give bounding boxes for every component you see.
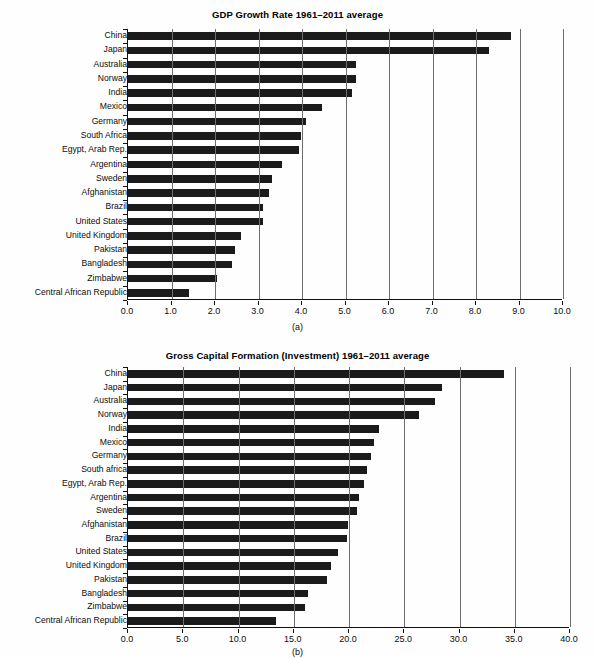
gridline bbox=[172, 29, 173, 299]
category-label: United Kingdom bbox=[0, 231, 127, 240]
category-label: Sweden bbox=[0, 174, 127, 183]
value-label: 25.0 bbox=[383, 634, 423, 644]
bar bbox=[128, 439, 374, 447]
category-label: Afghanistan bbox=[0, 188, 127, 197]
gridline bbox=[215, 29, 216, 299]
category-label: Argentina bbox=[0, 493, 127, 502]
category-label: United States bbox=[0, 217, 127, 226]
gridline bbox=[259, 29, 260, 299]
category-label: Egypt, Arab Rep. bbox=[0, 479, 127, 488]
bar bbox=[128, 535, 347, 543]
value-tick bbox=[403, 629, 404, 633]
figure-page: GDP Growth Rate 1961–2011 average ChinaJ… bbox=[0, 0, 595, 658]
value-tick bbox=[514, 629, 515, 633]
category-label: India bbox=[0, 424, 127, 433]
value-label: 40.0 bbox=[549, 634, 589, 644]
category-label: Egypt, Arab Rep. bbox=[0, 145, 127, 154]
value-tick bbox=[238, 629, 239, 633]
bar bbox=[128, 275, 217, 283]
value-label: 0.0 bbox=[107, 306, 147, 316]
value-tick bbox=[293, 629, 294, 633]
value-label: 2.0 bbox=[194, 306, 234, 316]
value-tick bbox=[182, 629, 183, 633]
value-label: 8.0 bbox=[455, 306, 495, 316]
value-tick bbox=[569, 629, 570, 633]
bar bbox=[128, 261, 232, 269]
bar bbox=[128, 425, 379, 433]
value-tick bbox=[562, 301, 563, 305]
chart-b-title: Gross Capital Formation (Investment) 196… bbox=[0, 350, 595, 361]
bar bbox=[128, 32, 511, 40]
bar bbox=[128, 507, 357, 515]
bar bbox=[128, 590, 308, 598]
value-label: 5.0 bbox=[325, 306, 365, 316]
category-label: Sweden bbox=[0, 506, 127, 515]
category-label: Japan bbox=[0, 45, 127, 54]
bar bbox=[128, 189, 269, 197]
gridline bbox=[404, 367, 405, 627]
category-label: Pakistan bbox=[0, 245, 127, 254]
bar bbox=[128, 576, 327, 584]
chart-a-title: GDP Growth Rate 1961–2011 average bbox=[0, 9, 595, 20]
gridline bbox=[520, 29, 521, 299]
value-label: 5.0 bbox=[162, 634, 202, 644]
category-label: South Africa bbox=[0, 131, 127, 140]
value-tick bbox=[127, 629, 128, 633]
value-label: 30.0 bbox=[439, 634, 479, 644]
category-label: Australia bbox=[0, 60, 127, 69]
bar bbox=[128, 89, 352, 97]
bar bbox=[128, 604, 305, 612]
bar bbox=[128, 370, 504, 378]
bar bbox=[128, 617, 276, 625]
category-label: China bbox=[0, 31, 127, 40]
bar bbox=[128, 218, 263, 226]
value-tick bbox=[459, 629, 460, 633]
gridline bbox=[294, 367, 295, 627]
value-tick bbox=[475, 301, 476, 305]
bar bbox=[128, 246, 235, 254]
bar bbox=[128, 494, 359, 502]
gridline bbox=[515, 367, 516, 627]
category-label: Germany bbox=[0, 451, 127, 460]
value-label: 0.0 bbox=[107, 634, 147, 644]
gridline bbox=[460, 367, 461, 627]
gridline bbox=[349, 367, 350, 627]
value-tick bbox=[258, 301, 259, 305]
category-label: Brazil bbox=[0, 202, 127, 211]
category-label: Bangladesh bbox=[0, 259, 127, 268]
value-label: 20.0 bbox=[328, 634, 368, 644]
category-label: South africa bbox=[0, 465, 127, 474]
value-label: 9.0 bbox=[499, 306, 539, 316]
value-label: 10.0 bbox=[218, 634, 258, 644]
chart-a-caption: (a) bbox=[0, 322, 595, 332]
category-label: Bangladesh bbox=[0, 589, 127, 598]
category-label: Mexico bbox=[0, 102, 127, 111]
category-label: Central African Republic bbox=[0, 616, 127, 625]
gridline bbox=[302, 29, 303, 299]
value-label: 35.0 bbox=[494, 634, 534, 644]
gridline bbox=[239, 367, 240, 627]
value-label: 6.0 bbox=[368, 306, 408, 316]
chart-panel-b: Gross Capital Formation (Investment) 196… bbox=[0, 340, 595, 658]
category-label: Afghanistan bbox=[0, 520, 127, 529]
value-tick bbox=[127, 301, 128, 305]
bar bbox=[128, 75, 356, 83]
category-label: Australia bbox=[0, 396, 127, 405]
gridline bbox=[389, 29, 390, 299]
category-label: Zimbabwe bbox=[0, 602, 127, 611]
category-label: Central African Republic bbox=[0, 288, 127, 297]
bar bbox=[128, 549, 338, 557]
bar bbox=[128, 480, 364, 488]
gridline bbox=[563, 29, 564, 299]
gridline bbox=[433, 29, 434, 299]
value-tick bbox=[345, 301, 346, 305]
category-label: India bbox=[0, 88, 127, 97]
bar bbox=[128, 398, 435, 406]
category-label: United Kingdom bbox=[0, 561, 127, 570]
category-label: Germany bbox=[0, 117, 127, 126]
bar bbox=[128, 411, 419, 419]
category-label: Brazil bbox=[0, 534, 127, 543]
value-tick bbox=[171, 301, 172, 305]
value-label: 7.0 bbox=[412, 306, 452, 316]
value-label: 3.0 bbox=[238, 306, 278, 316]
